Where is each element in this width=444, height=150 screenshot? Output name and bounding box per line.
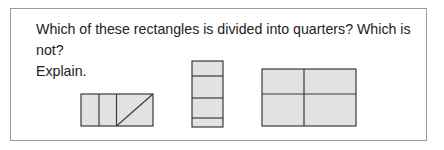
rectangle-c [262, 69, 356, 126]
rectangle-b-outline [192, 61, 223, 127]
rectangle-b [192, 61, 223, 127]
rectangle-c-outline [262, 69, 356, 126]
figures [0, 0, 444, 150]
rectangle-a [81, 94, 153, 126]
